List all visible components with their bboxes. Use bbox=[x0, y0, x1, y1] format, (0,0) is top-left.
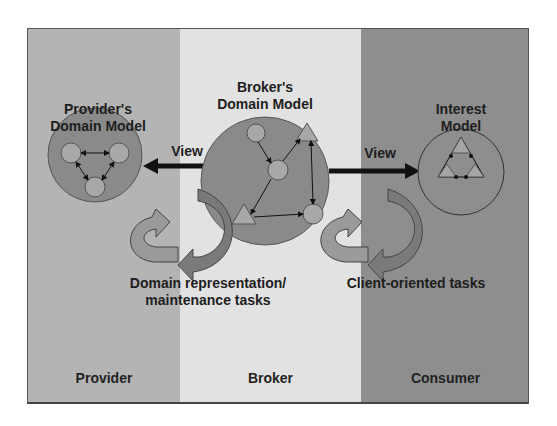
interest-model-graph bbox=[418, 129, 504, 215]
broker-label: Broker bbox=[180, 370, 361, 386]
provider-model-title-line2: Domain Model bbox=[38, 118, 158, 135]
interest-model-title-line1: Interest bbox=[411, 101, 511, 118]
view-arrow-right bbox=[329, 163, 420, 179]
domain-tasks-cycle-icon bbox=[130, 189, 232, 281]
broker-model-title-line2: Domain Model bbox=[205, 96, 325, 113]
provider-label: Provider bbox=[28, 370, 180, 386]
view-label-left: View bbox=[162, 143, 212, 160]
provider-model-title: Provider's Domain Model bbox=[38, 101, 158, 135]
diagram-frame: Provider's Domain Model Broker's Domain … bbox=[27, 28, 529, 404]
interest-model-title: Interest Model bbox=[411, 101, 511, 135]
broker-model-title-line1: Broker's bbox=[205, 79, 325, 96]
broker-domain-model-graph bbox=[201, 117, 329, 245]
broker-model-title: Broker's Domain Model bbox=[205, 79, 325, 113]
view-label-right: View bbox=[355, 145, 405, 162]
client-tasks-cycle-icon bbox=[321, 189, 422, 281]
consumer-label: Consumer bbox=[361, 370, 529, 386]
domain-tasks-label-line1: Domain representation/ bbox=[88, 275, 328, 292]
interest-model-title-line2: Model bbox=[411, 118, 511, 135]
provider-model-title-line1: Provider's bbox=[38, 101, 158, 118]
domain-tasks-label-line2: maintenance tasks bbox=[88, 292, 328, 309]
domain-tasks-label: Domain representation/ maintenance tasks bbox=[88, 275, 328, 309]
client-tasks-label: Client-oriented tasks bbox=[326, 275, 506, 292]
